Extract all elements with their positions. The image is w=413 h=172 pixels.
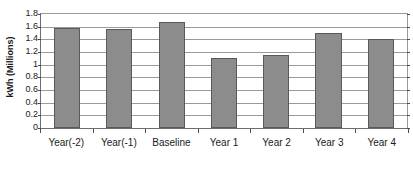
bar[interactable] <box>54 28 80 128</box>
bar[interactable] <box>106 29 132 128</box>
y-axis-tick-labels: 1.81.61.41.210.80.60.40.20 <box>16 0 38 134</box>
y-axis-tick-label: 1.6 <box>16 21 38 30</box>
y-axis-tick-label: 1.8 <box>16 9 38 18</box>
bar-slot <box>41 14 93 128</box>
y-axis-tick-label: 0.8 <box>16 72 38 81</box>
x-axis-tick-mark <box>145 129 146 133</box>
y-axis-tick-mark-right <box>407 52 410 53</box>
x-axis-tick-mark <box>355 129 356 133</box>
bar-chart: kWh (Millions) 1.81.61.41.210.80.60.40.2… <box>0 0 413 172</box>
bar-slot <box>250 14 302 128</box>
x-axis-category-label: Year 2 <box>250 136 303 158</box>
x-axis-category-label: Year(-1) <box>93 136 146 158</box>
y-axis-tick-label: 1.4 <box>16 34 38 43</box>
x-axis-tick-mark <box>303 129 304 133</box>
x-axis-category-label: Year 1 <box>198 136 251 158</box>
x-axis-category-label: Year 3 <box>303 136 356 158</box>
x-axis-tick-mark <box>408 129 409 133</box>
y-axis-tick-mark-right <box>407 77 410 78</box>
x-axis-category-label: Year 4 <box>355 136 408 158</box>
y-axis-tick-mark-right <box>407 103 410 104</box>
bar[interactable] <box>263 55 289 128</box>
y-axis-tick-label: 0 <box>16 123 38 132</box>
y-axis-tick-mark-right <box>407 90 410 91</box>
x-axis-tick-marks <box>40 129 408 134</box>
y-axis-tick-mark-right <box>407 115 410 116</box>
x-axis-tick-mark <box>40 129 41 133</box>
y-axis-tick-label: 1.2 <box>16 47 38 56</box>
y-axis-tick-label: 0.6 <box>16 85 38 94</box>
bar-slot <box>146 14 198 128</box>
y-axis-tick-mark-right <box>407 65 410 66</box>
x-axis-tick-mark <box>198 129 199 133</box>
y-axis-tick-mark-right <box>407 27 410 28</box>
x-axis-tick-mark <box>93 129 94 133</box>
x-axis-tick-mark <box>250 129 251 133</box>
bar-slot <box>93 14 145 128</box>
y-axis-tick-mark-right <box>407 39 410 40</box>
bars-group <box>41 14 407 128</box>
bar[interactable] <box>159 22 185 128</box>
x-axis-category-label: Year(-2) <box>40 136 93 158</box>
bar-slot <box>198 14 250 128</box>
x-axis-category-labels: Year(-2)Year(-1)BaselineYear 1Year 2Year… <box>40 136 408 158</box>
bar[interactable] <box>211 58 237 128</box>
bar-slot <box>302 14 354 128</box>
plot-area <box>40 13 408 129</box>
y-axis-tick-label: 0.2 <box>16 110 38 119</box>
y-axis-tick-mark-right <box>407 14 410 15</box>
x-axis-category-label: Baseline <box>145 136 198 158</box>
bar[interactable] <box>315 33 341 128</box>
y-axis-title-text: kWh (Millions) <box>4 37 14 98</box>
y-axis-tick-label: 1 <box>16 59 38 68</box>
bar[interactable] <box>368 39 394 128</box>
bar-slot <box>355 14 407 128</box>
y-axis-tick-label: 0.4 <box>16 97 38 106</box>
